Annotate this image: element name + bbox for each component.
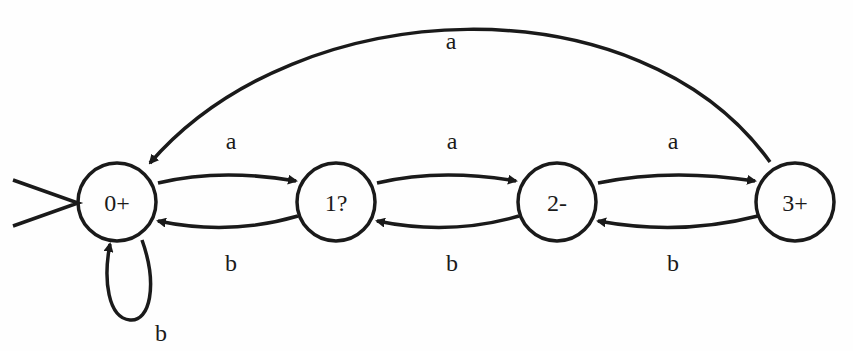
edge-2-1-b (377, 216, 519, 227)
edge-label-0-1: a (226, 128, 237, 155)
edge-label-3-2: b (667, 250, 679, 277)
edge-label-2-1: b (446, 250, 458, 277)
state-label-2: 2- (547, 190, 567, 217)
edge-label-0-0: b (155, 320, 167, 347)
edge-3-2-b (598, 216, 758, 227)
edge-2-3-a (598, 175, 755, 183)
edge-1-2-a (377, 175, 516, 183)
state-label-0: 0+ (104, 190, 130, 217)
edge-label-2-3: a (668, 128, 679, 155)
edge-label-1-2: a (447, 128, 458, 155)
state-label-1: 1? (325, 190, 348, 217)
edge-label-3-0: a (446, 28, 457, 55)
state-label-3: 3+ (782, 190, 808, 217)
edge-0-0-b (107, 240, 150, 320)
automaton-diagram: 0+ 1? 2- 3+ a b a b a b a b (0, 0, 853, 351)
edge-label-1-0: b (225, 250, 237, 277)
edge-0-1-a (158, 175, 296, 183)
edge-1-0-b (158, 216, 298, 227)
start-indicator-icon (13, 180, 78, 226)
diagram-graphics (0, 0, 853, 351)
